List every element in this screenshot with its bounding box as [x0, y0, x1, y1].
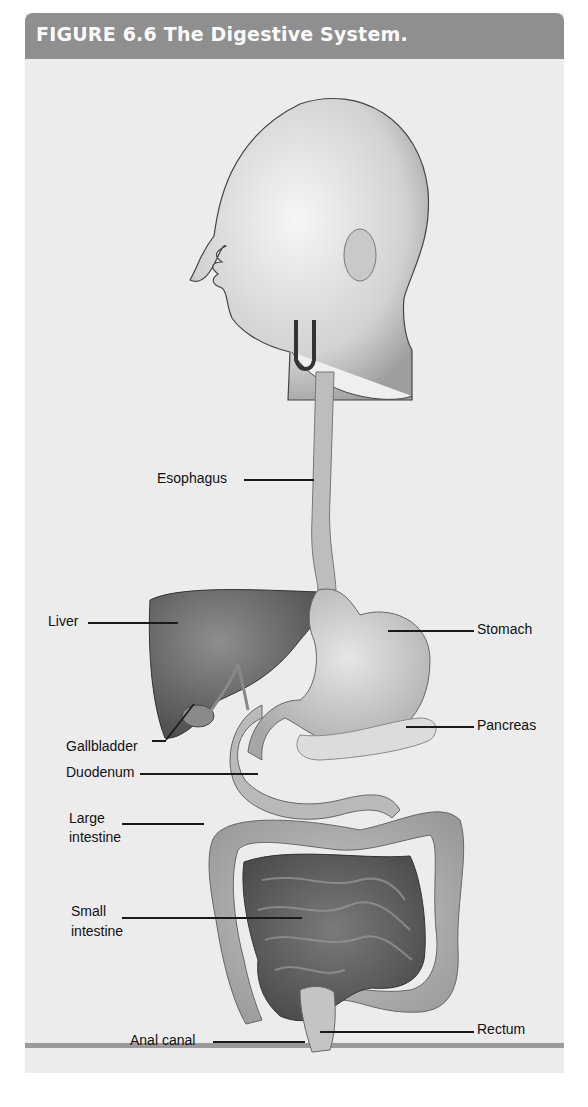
leader-esophagus	[244, 479, 314, 481]
leader-duodenum	[140, 773, 258, 775]
label-large-intestine-line1: Large	[69, 810, 105, 827]
label-small-intestine-line2: intestine	[71, 923, 123, 940]
leader-gallbladder-diagonal	[160, 700, 200, 744]
esophagus-organ	[312, 372, 336, 590]
leader-large-intestine	[122, 823, 204, 825]
label-duodenum: Duodenum	[66, 764, 135, 781]
label-rectum: Rectum	[477, 1021, 525, 1038]
label-gallbladder: Gallbladder	[66, 738, 138, 755]
leader-anal-canal	[213, 1041, 305, 1043]
leader-liver	[88, 622, 178, 624]
leader-stomach	[388, 630, 474, 632]
label-anal-canal: Anal canal	[130, 1032, 195, 1049]
leader-pancreas	[406, 726, 474, 728]
label-small-intestine-line1: Small	[71, 903, 106, 920]
label-stomach: Stomach	[477, 621, 532, 638]
label-liver: Liver	[48, 613, 78, 630]
leader-small-intestine	[122, 917, 302, 919]
label-esophagus: Esophagus	[157, 470, 227, 487]
head	[190, 99, 429, 400]
label-pancreas: Pancreas	[477, 717, 536, 734]
label-large-intestine-line2: intestine	[69, 829, 121, 846]
rectum-organ	[300, 986, 335, 1052]
digestive-system-illustration	[0, 0, 588, 1107]
leader-rectum	[320, 1031, 474, 1033]
